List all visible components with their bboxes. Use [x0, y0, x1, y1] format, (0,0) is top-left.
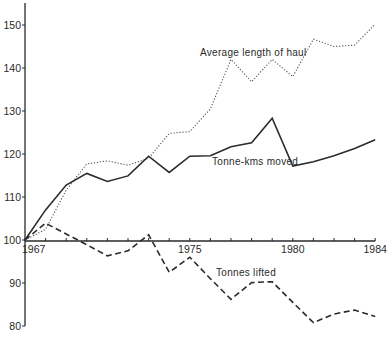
x-tick-label: 1980: [281, 243, 305, 255]
y-tick-label: 150: [3, 19, 21, 31]
x-tick-label: 1967: [22, 243, 46, 255]
y-tick-label: 120: [3, 148, 21, 160]
x-tick-label: 1975: [178, 243, 202, 255]
y-tick-label: 140: [3, 62, 21, 74]
series-layer: [25, 24, 375, 323]
series-label-tonne-kms-moved: Tonne-kms moved: [212, 156, 298, 167]
series-line-tonnes-lifted: [25, 223, 375, 322]
y-tick-label: 100: [3, 234, 21, 246]
x-tick-label: 1984: [364, 243, 388, 255]
line-chart: 8090100110120130140150 1967197519801984 …: [0, 0, 390, 340]
series-line-tonne-kms-moved: [25, 118, 375, 240]
series-label-average-length-of-haul: Average length of haul: [200, 47, 307, 58]
y-axis: 8090100110120130140150: [3, 3, 25, 332]
y-tick-label: 80: [9, 320, 21, 332]
y-tick-label: 130: [3, 105, 21, 117]
y-tick-label: 90: [9, 277, 21, 289]
series-label-tonnes-lifted: Tonnes lifted: [216, 267, 276, 278]
x-axis: 1967197519801984: [22, 238, 387, 255]
y-tick-label: 110: [4, 191, 21, 203]
